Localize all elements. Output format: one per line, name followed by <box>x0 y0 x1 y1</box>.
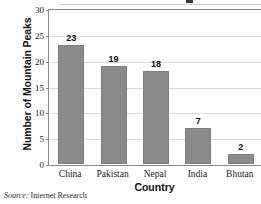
chart-top-hairline <box>60 4 261 5</box>
bar-slot: 2 <box>220 11 261 164</box>
bar[interactable] <box>228 154 254 164</box>
y-tick-mark <box>46 88 49 89</box>
bar[interactable] <box>143 71 169 164</box>
y-tick-label: 20 <box>35 57 44 67</box>
cropped-title-remnant <box>186 0 193 3</box>
plot-area: 051015202530 23191872 <box>48 9 261 166</box>
y-tick-label: 10 <box>35 108 44 118</box>
y-axis-title: Number of Mountain Peaks <box>21 9 33 159</box>
bar[interactable] <box>101 66 127 164</box>
bar[interactable] <box>185 128 211 164</box>
bar-slot: 19 <box>92 11 134 164</box>
y-tick-label: 5 <box>40 134 45 144</box>
y-tick-mark <box>46 36 49 37</box>
bar-value-label: 2 <box>238 142 243 152</box>
y-tick-mark <box>46 165 49 166</box>
y-tick-mark <box>46 139 49 140</box>
bars-group: 23191872 <box>50 11 261 164</box>
y-tick-label: 15 <box>35 83 44 93</box>
x-tick-label-china: China <box>59 169 82 179</box>
y-tick-label: 25 <box>35 31 44 41</box>
bar-chart-figure: Number of Mountain Peaks 051015202530 23… <box>0 0 261 204</box>
bar-value-label: 23 <box>66 33 76 43</box>
y-tick-mark <box>46 10 49 11</box>
y-tick-mark <box>46 62 49 63</box>
source-label: Source: <box>4 191 29 200</box>
source-text: Internet Research <box>31 191 87 200</box>
bar-slot: 18 <box>135 11 177 164</box>
x-tick-label-bhutan: Bhutan <box>226 169 253 179</box>
bar-slot: 7 <box>177 11 219 164</box>
bar-value-label: 18 <box>151 59 161 69</box>
bar-value-label: 7 <box>196 116 201 126</box>
y-tick-label: 30 <box>35 5 44 15</box>
bar-value-label: 19 <box>109 54 119 64</box>
y-tick-mark <box>46 113 49 114</box>
bar[interactable] <box>58 45 84 164</box>
bar-slot: 23 <box>50 11 92 164</box>
x-tick-label-pakistan: Pakistan <box>96 169 128 179</box>
x-tick-label-india: India <box>188 169 208 179</box>
source-note: Source: Internet Research <box>4 191 87 200</box>
y-tick-label: 0 <box>40 160 45 170</box>
x-tick-label-nepal: Nepal <box>144 169 167 179</box>
